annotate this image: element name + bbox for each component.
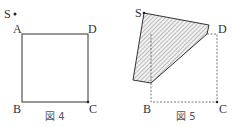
figure-5: S D B C 図 5 <box>133 6 227 122</box>
label-b: B <box>143 102 151 116</box>
label-b: B <box>13 102 21 116</box>
point-s-dot <box>143 12 146 15</box>
square-abcd <box>22 34 88 102</box>
label-s: S <box>135 6 142 20</box>
point-s-dot <box>14 13 17 16</box>
label-a: A <box>13 22 22 36</box>
label-c: C <box>219 102 227 116</box>
label-c: C <box>89 102 97 116</box>
point-c-dot <box>216 101 219 104</box>
figure-4: S A D B C 図 4 <box>4 7 97 122</box>
label-s: S <box>4 7 11 21</box>
diagram-canvas: S A D B C 図 4 S D B C 図 5 <box>0 0 232 127</box>
hatched-polygon <box>133 13 209 83</box>
label-d: D <box>88 22 97 36</box>
label-d: D <box>218 22 227 36</box>
caption-figure-5: 図 5 <box>176 111 196 122</box>
caption-figure-4: 図 4 <box>45 111 65 122</box>
